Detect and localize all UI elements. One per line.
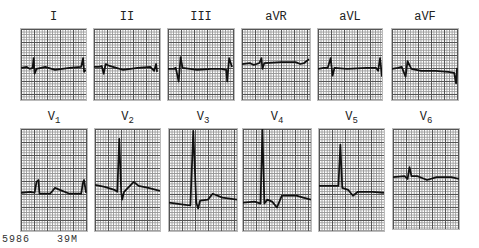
footer: 5986 39M xyxy=(2,234,98,245)
ecg-trace xyxy=(319,129,384,231)
lead-label-v4: V4 xyxy=(242,110,312,126)
lead-label-v1: V1 xyxy=(20,110,88,126)
lead-panel-v4 xyxy=(242,128,312,232)
record-id: 5986 xyxy=(2,234,30,245)
lead-panel-v1 xyxy=(20,128,88,232)
lead-panel-ii xyxy=(93,28,161,101)
ecg-trace xyxy=(94,29,160,100)
ecg-trace xyxy=(318,29,382,100)
lead-label-avr: aVR xyxy=(241,10,311,24)
ecg-trace xyxy=(242,29,310,100)
lead-label-v5: V5 xyxy=(318,110,385,126)
ecg-trace xyxy=(21,129,87,231)
lead-label-i: I xyxy=(20,10,87,24)
lead-label-iii: III xyxy=(167,10,235,24)
lead-panel-avr xyxy=(241,28,311,101)
ecg-trace xyxy=(21,29,86,100)
ecg-trace xyxy=(168,29,234,100)
lead-label-ii: II xyxy=(93,10,161,24)
lead-label-v6: V6 xyxy=(392,110,460,126)
ecg-trace xyxy=(392,29,458,100)
lead-panel-avl xyxy=(317,28,383,101)
lead-panel-v6 xyxy=(392,128,460,230)
ecg-trace xyxy=(95,129,160,231)
ecg-trace xyxy=(393,129,459,229)
ecg-trace xyxy=(169,129,237,231)
patient-info: 39M xyxy=(57,234,78,245)
lead-label-v2: V2 xyxy=(94,110,161,126)
lead-label-v3: V3 xyxy=(168,110,238,126)
lead-label-avl: aVL xyxy=(317,10,383,24)
ecg-trace xyxy=(243,129,311,231)
lead-panel-iii xyxy=(167,28,235,101)
lead-panel-i xyxy=(20,28,87,101)
lead-panel-v3 xyxy=(168,128,238,232)
lead-panel-avf xyxy=(391,28,459,101)
lead-label-avf: aVF xyxy=(391,10,459,24)
lead-panel-v2 xyxy=(94,128,161,232)
lead-panel-v5 xyxy=(318,128,385,232)
